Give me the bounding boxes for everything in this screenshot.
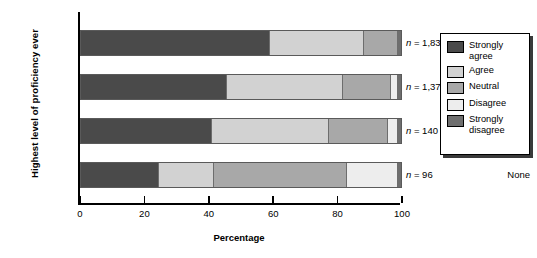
x-axis-tick-label: 40 xyxy=(189,208,229,219)
bar-segment xyxy=(227,75,344,99)
sample-size-label: n = 96 xyxy=(406,162,433,188)
legend-item: Neutral xyxy=(447,81,524,94)
legend-label: Neutral xyxy=(469,81,499,92)
chart-figure: Highest level of proficiency ever HighMo… xyxy=(0,0,537,258)
legend-label: Strongly disagree xyxy=(469,114,524,135)
legend-label: Agree xyxy=(469,65,494,76)
x-axis-tick xyxy=(272,196,274,203)
bar-row xyxy=(80,74,400,100)
legend-label: Disagree xyxy=(469,98,506,109)
n-italic: n xyxy=(406,37,411,48)
bar-segment xyxy=(398,75,401,99)
legend-swatch xyxy=(447,99,464,111)
stacked-bar xyxy=(80,162,402,188)
bar-segment xyxy=(270,31,364,55)
legend-items: Strongly agreeAgreeNeutralDisagreeStrong… xyxy=(447,40,524,135)
y-axis-title: Highest level of proficiency ever xyxy=(29,14,40,194)
x-axis-tick xyxy=(144,196,146,203)
bar-segment xyxy=(398,119,401,143)
legend-swatch xyxy=(447,115,464,127)
plot-area: 020406080100 xyxy=(78,12,400,205)
legend-item: Agree xyxy=(447,65,524,78)
bar-row xyxy=(80,30,400,56)
legend-swatch xyxy=(447,66,464,78)
stacked-bar xyxy=(80,30,402,56)
bar-segment xyxy=(159,163,213,187)
stacked-bar xyxy=(80,74,402,100)
legend-swatch xyxy=(447,82,464,94)
bar-segment xyxy=(214,163,347,187)
bar-segment xyxy=(398,31,401,55)
bar-segment xyxy=(81,75,227,99)
bar-segment xyxy=(81,163,159,187)
n-italic: n xyxy=(406,81,411,92)
legend-item: Strongly disagree xyxy=(447,114,524,135)
x-axis-tick-label: 80 xyxy=(318,208,358,219)
bar-segment xyxy=(212,119,329,143)
bar-segment xyxy=(398,163,401,187)
x-axis-tick xyxy=(208,196,210,203)
n-italic: n xyxy=(406,169,411,180)
legend: Strongly agreeAgreeNeutralDisagreeStrong… xyxy=(440,33,530,155)
bar-segment xyxy=(81,119,212,143)
legend-item: Strongly agree xyxy=(447,40,524,61)
bar-segment xyxy=(343,75,391,99)
category-label-none: None xyxy=(463,162,537,188)
x-axis-tick-label: 100 xyxy=(382,208,422,219)
bar-segment xyxy=(364,31,398,55)
bar-segment xyxy=(81,31,270,55)
legend-item: Disagree xyxy=(447,98,524,111)
sample-size-label: n = 140 xyxy=(406,118,438,144)
bar-segment xyxy=(388,119,398,143)
x-axis-tick xyxy=(401,196,403,203)
legend-swatch xyxy=(447,41,464,53)
x-axis-tick-label: 60 xyxy=(253,208,293,219)
stacked-bar xyxy=(80,118,402,144)
x-axis-tick-label: 0 xyxy=(60,208,100,219)
x-axis-tick xyxy=(337,196,339,203)
n-italic: n xyxy=(406,125,411,136)
bar-row xyxy=(80,118,400,144)
x-axis-tick xyxy=(79,196,81,203)
bar-segment xyxy=(329,119,388,143)
legend-label: Strongly agree xyxy=(469,40,524,61)
x-axis-tick-label: 20 xyxy=(124,208,164,219)
bar-segment xyxy=(347,163,398,187)
x-axis-title: Percentage xyxy=(78,232,400,243)
bar-row xyxy=(80,162,400,188)
